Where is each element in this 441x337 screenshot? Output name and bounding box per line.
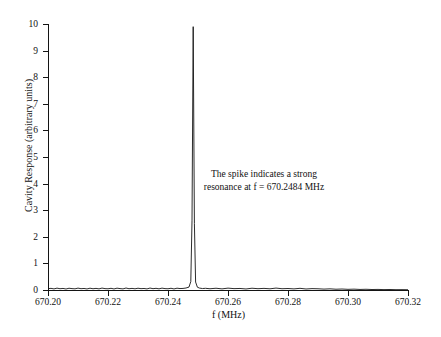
x-tick-mark [48,291,49,296]
x-tick-label: 670.24 [155,297,181,308]
x-tick-mark [228,291,229,296]
x-tick-mark [108,291,109,296]
x-tick-label: 670.26 [215,297,241,308]
x-tick-label: 670.32 [395,297,421,308]
y-tick-label: 8 [33,72,38,82]
x-tick-mark [408,291,409,296]
x-tick-label: 670.22 [95,297,121,308]
cavity-response-line [48,27,408,290]
annotation-line-2: resonance at f = 670.2484 MHz [188,181,340,194]
y-tick-label: 3 [33,205,38,215]
y-tick-label: 9 [33,46,38,56]
x-tick-mark [288,291,289,296]
x-axis-label: f (MHz) [48,309,409,320]
y-tick-label: 6 [33,125,38,135]
y-tick-label: 7 [33,99,38,109]
y-tick-label: 0 [33,285,38,295]
y-tick-label: 2 [33,232,38,242]
y-axis-label: Cavity Response (arbitrary units) [23,36,34,256]
y-tick-label: 4 [33,179,38,189]
data-plot [48,24,408,291]
x-tick-mark [168,291,169,296]
y-tick-label: 1 [33,258,38,268]
annotation-line-1: The spike indicates a strong [188,168,340,181]
y-tick-label: 5 [33,152,38,162]
x-tick-mark [348,291,349,296]
resonance-annotation: The spike indicates a strong resonance a… [188,168,340,194]
y-tick-label: 10 [29,19,39,29]
resonance-chart-figure: 012345678910 670.20670.22670.24670.26670… [0,0,441,337]
x-tick-label: 670.28 [275,297,301,308]
x-tick-label: 670.30 [335,297,361,308]
x-tick-label: 670.20 [35,297,61,308]
